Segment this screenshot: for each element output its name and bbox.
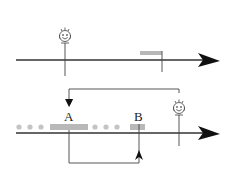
dot bbox=[38, 124, 43, 129]
label-b: B bbox=[134, 110, 143, 123]
dot bbox=[16, 124, 21, 129]
dot bbox=[92, 124, 97, 129]
bottom-timeline bbox=[16, 89, 220, 163]
event-bar-b bbox=[130, 124, 145, 130]
label-a: A bbox=[64, 110, 73, 123]
timeline-diagram bbox=[0, 0, 237, 178]
feedback-path-top bbox=[69, 89, 179, 101]
top-event-bar bbox=[140, 51, 162, 55]
dot bbox=[103, 124, 108, 129]
bottom-person-smiley-face-icon bbox=[173, 100, 184, 147]
event-bar-a bbox=[50, 124, 88, 130]
top-person-smiley-face-icon bbox=[59, 28, 70, 77]
dot bbox=[114, 124, 119, 129]
top-timeline bbox=[16, 28, 220, 77]
feedback-path-bottom bbox=[69, 130, 139, 163]
dot bbox=[27, 124, 32, 129]
